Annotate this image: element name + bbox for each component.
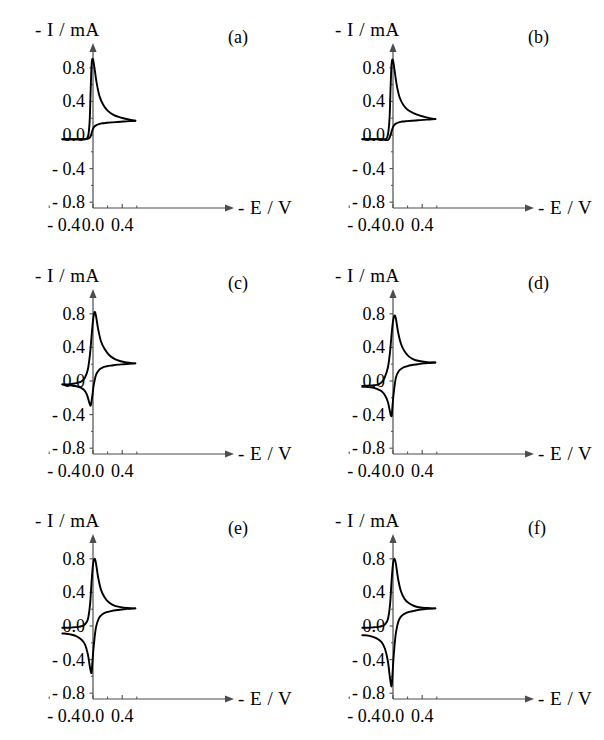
x-tick-label-2: 0.4 <box>97 216 147 234</box>
x-axis-label: - E / V <box>238 444 292 463</box>
y-axis-arrow <box>89 289 96 298</box>
x-axis-arrow <box>225 204 234 211</box>
y-tick-label-4: - 0.8 <box>29 193 85 211</box>
x-tick-label-2: 0.4 <box>397 707 447 725</box>
cyclic-voltammogram-figure: - I / mA- E / V(a)0.80.40.0- 0.4- 0.8- 0… <box>0 0 604 740</box>
y-tick-label-0: 0.8 <box>29 305 85 323</box>
y-axis-arrow <box>89 534 96 543</box>
y-tick-label-1: 0.4 <box>29 583 85 601</box>
y-tick-label-4: - 0.8 <box>329 439 385 457</box>
x-tick-label-2: 0.4 <box>397 216 447 234</box>
x-axis-label: - E / V <box>538 198 592 217</box>
x-axis-arrow <box>225 695 234 702</box>
y-tick-label-2: 0.0 <box>29 126 85 144</box>
y-axis-arrow <box>389 43 396 52</box>
y-tick-label-0: 0.8 <box>329 59 385 77</box>
y-axis-label: - I / mA <box>35 20 100 39</box>
panel-c: - I / mA- E / V(c)0.80.40.0- 0.4- 0.8- 0… <box>0 246 302 493</box>
y-tick-label-2: 0.0 <box>329 372 385 390</box>
x-axis-label: - E / V <box>238 198 292 217</box>
y-axis-label: - I / mA <box>335 20 400 39</box>
y-tick-label-0: 0.8 <box>329 550 385 568</box>
panel-label: (c) <box>228 274 248 292</box>
x-axis-arrow <box>525 204 534 211</box>
y-tick-label-4: - 0.8 <box>29 684 85 702</box>
y-axis-arrow <box>389 534 396 543</box>
y-tick-label-4: - 0.8 <box>29 439 85 457</box>
panel-a: - I / mA- E / V(a)0.80.40.0- 0.4- 0.8- 0… <box>0 0 302 247</box>
y-tick-label-3: - 0.4 <box>329 651 385 669</box>
y-tick-label-4: - 0.8 <box>329 684 385 702</box>
panel-b: - I / mA- E / V(b)0.80.40.0- 0.4- 0.8- 0… <box>300 0 602 247</box>
y-tick-label-3: - 0.4 <box>29 651 85 669</box>
y-tick-label-3: - 0.4 <box>329 160 385 178</box>
y-tick-label-0: 0.8 <box>29 59 85 77</box>
x-axis-label: - E / V <box>238 689 292 708</box>
y-tick-label-3: - 0.4 <box>29 406 85 424</box>
y-tick-label-2: 0.0 <box>29 372 85 390</box>
y-tick-label-3: - 0.4 <box>329 406 385 424</box>
y-tick-label-2: 0.0 <box>329 126 385 144</box>
y-tick-label-0: 0.8 <box>29 550 85 568</box>
y-tick-label-1: 0.4 <box>329 92 385 110</box>
panel-label: (f) <box>528 519 546 537</box>
x-axis-arrow <box>525 450 534 457</box>
x-axis-label: - E / V <box>538 444 592 463</box>
y-axis-arrow <box>89 43 96 52</box>
x-axis-arrow <box>225 450 234 457</box>
panel-label: (a) <box>228 28 248 46</box>
y-tick-label-1: 0.4 <box>329 583 385 601</box>
panel-d: - I / mA- E / V(d)0.80.40.0- 0.4- 0.8- 0… <box>300 246 602 493</box>
y-axis-arrow <box>389 289 396 298</box>
y-tick-label-1: 0.4 <box>29 338 85 356</box>
panel-f: - I / mA- E / V(f)0.80.40.0- 0.4- 0.8- 0… <box>300 491 602 738</box>
y-tick-label-4: - 0.8 <box>329 193 385 211</box>
y-tick-label-0: 0.8 <box>329 305 385 323</box>
panel-label: (d) <box>528 274 549 292</box>
panel-label: (b) <box>528 28 549 46</box>
x-tick-label-2: 0.4 <box>97 462 147 480</box>
y-tick-label-2: 0.0 <box>29 617 85 635</box>
x-axis-arrow <box>525 695 534 702</box>
y-axis-label: - I / mA <box>35 266 100 285</box>
x-tick-label-2: 0.4 <box>97 707 147 725</box>
x-axis-label: - E / V <box>538 689 592 708</box>
panel-label: (e) <box>228 519 248 537</box>
y-axis-label: - I / mA <box>335 266 400 285</box>
y-axis-label: - I / mA <box>35 511 100 530</box>
panel-e: - I / mA- E / V(e)0.80.40.0- 0.4- 0.8- 0… <box>0 491 302 738</box>
y-axis-label: - I / mA <box>335 511 400 530</box>
y-tick-label-1: 0.4 <box>29 92 85 110</box>
y-tick-label-1: 0.4 <box>329 338 385 356</box>
y-tick-label-2: 0.0 <box>329 617 385 635</box>
y-tick-label-3: - 0.4 <box>29 160 85 178</box>
x-tick-label-2: 0.4 <box>397 462 447 480</box>
